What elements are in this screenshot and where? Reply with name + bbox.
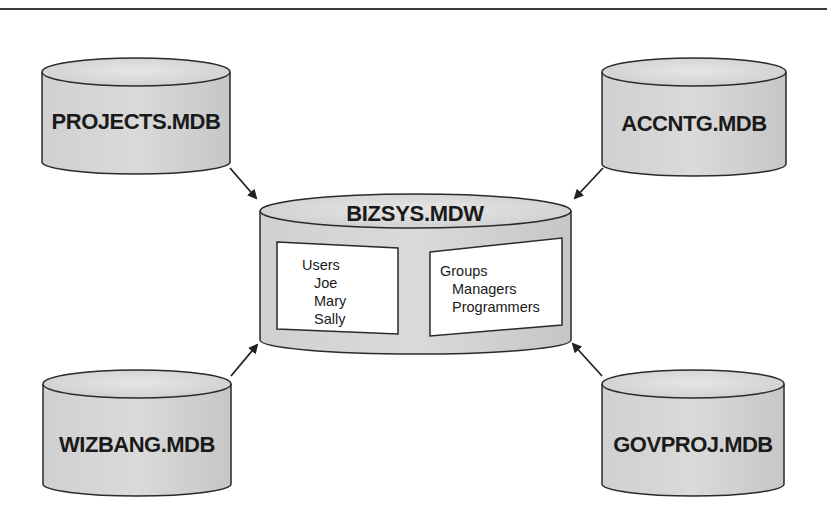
central-workgroup-cylinder: BIZSYS.MDW Users Joe Mary Sally Groups M… [260, 194, 571, 354]
user-item: Mary [314, 293, 347, 309]
user-item: Sally [314, 311, 346, 327]
database-label: ACCNTG.MDB [621, 111, 766, 136]
user-item: Joe [314, 275, 337, 291]
group-item: Programmers [452, 299, 540, 315]
users-heading: Users [302, 257, 340, 273]
groups-heading: Groups [440, 263, 488, 279]
database-label: WIZBANG.MDB [59, 432, 215, 457]
diagram-canvas: PROJECTS.MDB ACCNTG.MDB WIZBANG.MDB GOVP… [0, 0, 827, 522]
arrow-projects-to-central [230, 168, 256, 198]
arrow-wizbang-to-central [231, 345, 257, 376]
groups-box: Groups Managers Programmers [430, 238, 562, 336]
database-cylinder-wizbang: WIZBANG.MDB [43, 370, 231, 496]
database-cylinder-govproj: GOVPROJ.MDB [602, 370, 784, 496]
database-cylinder-accntg: ACCNTG.MDB [602, 58, 786, 176]
users-box: Users Joe Mary Sally [277, 242, 398, 334]
database-cylinder-projects: PROJECTS.MDB [42, 58, 230, 174]
central-label: BIZSYS.MDW [346, 201, 484, 226]
database-label: PROJECTS.MDB [52, 109, 221, 134]
arrow-govproj-to-central [573, 344, 602, 376]
database-label: GOVPROJ.MDB [613, 432, 773, 457]
arrow-accntg-to-central [575, 168, 603, 198]
group-item: Managers [452, 281, 516, 297]
